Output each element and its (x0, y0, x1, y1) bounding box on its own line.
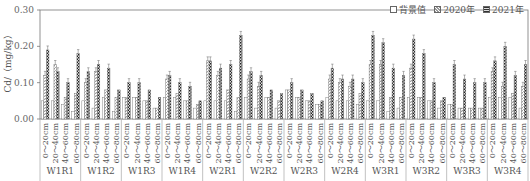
x-tick-label: 20～40cm (458, 123, 467, 164)
bar (145, 101, 148, 119)
bar (41, 101, 44, 119)
bar (240, 35, 243, 119)
bar (377, 101, 380, 119)
bar (448, 104, 451, 119)
x-tick-label: 0～20cm (41, 123, 50, 159)
x-tick-label: 40～60cm (61, 123, 70, 164)
x-tick-label: 60～80cm (275, 123, 284, 164)
y-tick-label: 0.20 (14, 41, 34, 51)
group-label: W3R1 (372, 166, 399, 176)
bar (509, 97, 512, 119)
bar (290, 83, 293, 119)
bar (489, 97, 492, 119)
bar (519, 108, 522, 119)
x-tick-label: 60～80cm (397, 123, 406, 164)
bar (285, 90, 288, 119)
bar (331, 68, 334, 119)
legend: 背景值 2020年 2021年 (390, 3, 524, 16)
bar (97, 65, 100, 120)
bar (438, 108, 441, 119)
group-label: W1R4 (169, 166, 197, 176)
group-label: W2R1 (209, 166, 236, 176)
x-tick-label: 40～60cm (102, 123, 111, 164)
bar (270, 90, 273, 119)
bar (204, 101, 207, 119)
bar (123, 97, 126, 119)
bar (257, 86, 260, 119)
bar (77, 54, 80, 119)
x-tick-label: 60～80cm (356, 123, 365, 164)
bar (105, 90, 108, 119)
bar (471, 108, 474, 119)
checkered-swatch-icon (483, 6, 490, 13)
legend-label: 2020年 (443, 3, 475, 16)
x-tick-label: 0～20cm (163, 123, 172, 159)
bar (173, 97, 176, 119)
bar (143, 101, 146, 119)
legend-label: 2021年 (492, 3, 524, 16)
x-tick-label: 40～60cm (509, 123, 518, 164)
x-tick-label: 40～60cm (224, 123, 233, 164)
x-tick-label: 0～20cm (366, 123, 375, 159)
x-tick-label: 40～60cm (468, 123, 477, 164)
x-tick-label: 20～40cm (336, 123, 345, 164)
bar (265, 97, 268, 119)
bar-chart: 0.000.100.200.300～20cm20～40cm40～60cm60～8… (0, 0, 530, 181)
bar (87, 72, 90, 119)
x-tick-label: 20～40cm (214, 123, 223, 164)
bar (224, 101, 227, 119)
bar (84, 83, 87, 119)
bar (407, 97, 410, 119)
hatched-swatch-icon (434, 6, 441, 13)
bar (67, 83, 70, 119)
group-label: W3R2 (413, 166, 440, 176)
bar (295, 97, 298, 119)
bar (112, 112, 115, 119)
bar (387, 112, 390, 119)
group-label: W2R2 (250, 166, 277, 176)
bar (367, 101, 370, 119)
bar (417, 97, 420, 119)
bar (102, 97, 105, 119)
bar (461, 108, 464, 119)
bar (148, 90, 151, 119)
bar (420, 97, 423, 119)
x-tick-label: 40～60cm (143, 123, 152, 164)
bar (278, 101, 281, 119)
bar (275, 108, 278, 119)
bar (514, 75, 517, 119)
x-tick-label: 20～40cm (173, 123, 182, 164)
x-tick-label: 60～80cm (438, 123, 447, 164)
x-tick-label: 40～60cm (346, 123, 355, 164)
x-tick-label: 60～80cm (234, 123, 243, 164)
bar (44, 75, 47, 119)
bar (491, 72, 494, 119)
x-tick-label: 0～20cm (285, 123, 294, 159)
x-tick-label: 0～20cm (448, 123, 457, 159)
bar (473, 83, 476, 119)
bar (494, 61, 497, 119)
bar (234, 112, 237, 119)
x-tick-label: 60～80cm (153, 123, 162, 164)
x-tick-label: 60～80cm (478, 123, 487, 164)
bar (54, 65, 57, 120)
bar (267, 97, 270, 119)
bar (382, 43, 385, 119)
bar (209, 61, 212, 119)
bar (369, 65, 372, 120)
bar (389, 97, 392, 119)
bar (339, 83, 342, 119)
bar (280, 94, 283, 119)
x-tick-label: 0～20cm (204, 123, 213, 159)
bar (250, 72, 253, 119)
bar (64, 97, 67, 119)
bar (176, 94, 179, 119)
bar (237, 97, 240, 119)
group-label: W1R1 (47, 166, 74, 176)
bar (481, 108, 484, 119)
bar (62, 104, 65, 119)
bar (522, 86, 525, 119)
x-tick-label: 0～20cm (82, 123, 91, 159)
bar (128, 83, 131, 119)
bar (341, 79, 344, 119)
